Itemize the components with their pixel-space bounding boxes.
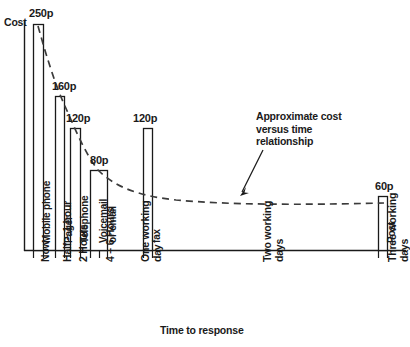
x-tick-two-working-days-line2: days [274, 201, 286, 262]
trend-annotation-line2: versus time [256, 123, 342, 136]
x-tick-two-working-days-line1: Two working [262, 201, 274, 262]
x-tick-three-working-days-line2: days [399, 193, 410, 262]
value-label-telephone: 120p [66, 112, 90, 124]
x-tick-two-hours: 2 Hours [78, 224, 90, 262]
x-tick-one-working-day: One working day [140, 201, 163, 262]
y-axis-title: Cost [4, 16, 27, 28]
trend-annotation: Approximate cost versus time relationshi… [256, 110, 342, 148]
value-label-post: 60p [375, 180, 393, 192]
value-label-pager: 160p [52, 80, 76, 92]
value-label-voicemail: 80p [90, 154, 108, 166]
trend-annotation-line1: Approximate cost [256, 110, 342, 123]
value-label-fax: 120p [133, 112, 157, 124]
x-tick-three-working-days-line1: Three working [387, 193, 399, 262]
x-tick-now: Now [40, 240, 52, 262]
trend-annotation-line3: relationship [256, 135, 342, 148]
x-tick-four-to-six-hours: 4 – 6 Hours [105, 208, 117, 262]
x-tick-one-working-day-line1: One working [140, 201, 152, 262]
value-label-mobile-phone: 250p [29, 7, 53, 19]
x-tick-half-to-one-hour: Half – 1 hour [62, 201, 74, 262]
x-axis-title: Time to response [160, 324, 244, 336]
bar-label-mobile-phone: Mobile phone [41, 181, 52, 243]
x-tick-two-working-days: Two working days [262, 201, 285, 262]
x-tick-three-working-days: Three working days [387, 193, 410, 262]
x-tick-one-working-day-line2: day [152, 201, 164, 262]
